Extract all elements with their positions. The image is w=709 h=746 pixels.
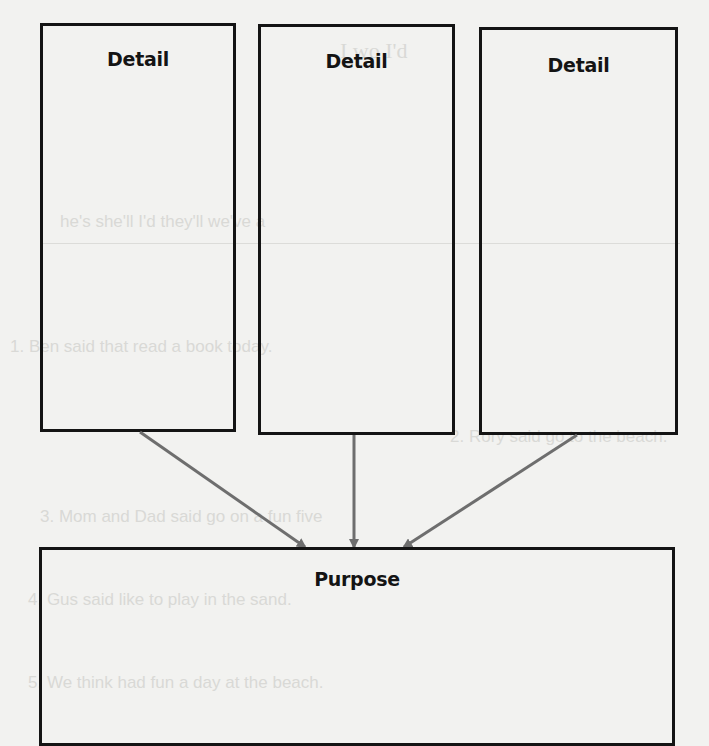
purpose-box-label: Purpose [42, 568, 672, 590]
arrow-detail-1-to-purpose [140, 432, 305, 547]
arrow-detail-3-to-purpose [404, 435, 577, 547]
purpose-box: Purpose [39, 547, 675, 746]
